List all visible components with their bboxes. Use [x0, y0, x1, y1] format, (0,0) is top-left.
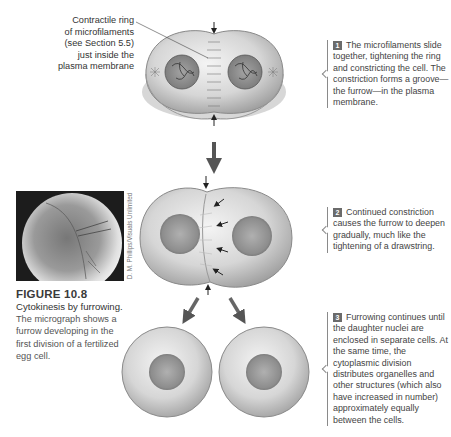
step-number-badge: 3: [333, 313, 342, 322]
figure-number: FIGURE 10.8: [16, 288, 128, 300]
label-line: of microfilaments: [48, 27, 134, 39]
daughter-cell-left: [122, 327, 212, 417]
micrograph-image: [16, 191, 124, 281]
arrow-down-left-icon: [186, 298, 198, 318]
figure-caption: FIGURE 10.8 Cytokinesis by furrowing. Th…: [16, 288, 128, 363]
arrow-down-right-icon: [230, 298, 242, 318]
photo-credit: D. M. Phillips/Visuals Unlimited: [124, 191, 134, 281]
label-line: (see Section 5.5): [48, 38, 134, 50]
figure-description: The micrograph shows a furrow developing…: [16, 313, 128, 363]
bracket-icon: [324, 40, 330, 108]
daughter-cell-right: [219, 327, 309, 417]
bracket-icon: [324, 207, 330, 253]
step-text: Continued constriction causes the furrow…: [333, 207, 445, 251]
label-line: plasma membrane: [48, 61, 134, 73]
step-number-badge: 2: [333, 208, 342, 217]
step-number-badge: 1: [333, 41, 342, 50]
label-line: just inside the: [48, 50, 134, 62]
figure-title: Cytokinesis by furrowing.: [16, 301, 128, 313]
cell-stage-2: [140, 176, 292, 295]
photo-credit-text: D. M. Phillips/Visuals Unlimited: [126, 193, 133, 280]
cell-stage-1: [136, 22, 286, 126]
step-3-caption: 3Furrowing continues until the daughter …: [324, 312, 451, 426]
step-text: Furrowing continues until the daughter n…: [333, 312, 448, 425]
label-line: Contractile ring: [48, 15, 134, 27]
bracket-icon: [324, 312, 330, 426]
step-1-caption: 1The microfilaments slide together, tigh…: [324, 40, 451, 108]
contractile-ring-label: Contractile ring of microfilaments (see …: [48, 15, 134, 73]
step-2-caption: 2Continued constriction causes the furro…: [324, 207, 451, 253]
step-text: The microfilaments slide together, tight…: [333, 40, 448, 107]
